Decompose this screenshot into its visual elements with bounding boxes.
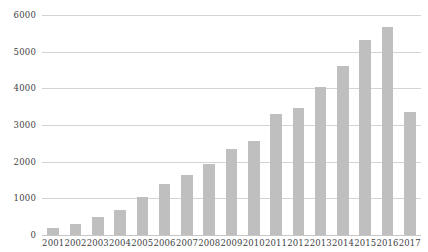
x-tick-label: 2002 bbox=[64, 238, 86, 248]
bar-2011 bbox=[270, 114, 282, 235]
bar-2014 bbox=[337, 66, 349, 235]
bar-2001 bbox=[47, 228, 59, 235]
x-tick-label: 2005 bbox=[131, 238, 153, 248]
bar-2005 bbox=[137, 197, 149, 235]
x-tick-label: 2011 bbox=[265, 238, 287, 248]
bar-2012 bbox=[293, 108, 305, 235]
x-tick-label: 2017 bbox=[399, 238, 421, 248]
y-tick-label: 4000 bbox=[14, 83, 36, 93]
x-tick-label: 2015 bbox=[354, 238, 376, 248]
bar-2003 bbox=[92, 217, 104, 235]
x-tick-label: 2008 bbox=[198, 238, 220, 248]
bar-chart: 0100020003000400050006000 20012002200320… bbox=[0, 0, 428, 252]
x-tick-label: 2013 bbox=[310, 238, 332, 248]
bar-2016 bbox=[382, 27, 394, 235]
x-tick-label: 2006 bbox=[154, 238, 176, 248]
bar-2004 bbox=[114, 210, 126, 235]
x-tick-label: 2010 bbox=[243, 238, 265, 248]
x-tick-label: 2004 bbox=[109, 238, 131, 248]
x-tick-label: 2001 bbox=[42, 238, 64, 248]
x-axis: 2001200220032004200520062007200820092010… bbox=[42, 238, 421, 252]
y-tick-label: 2000 bbox=[14, 157, 36, 167]
y-tick-label: 5000 bbox=[14, 47, 36, 57]
x-tick-label: 2012 bbox=[287, 238, 309, 248]
bar-2017 bbox=[404, 112, 416, 235]
bar-2009 bbox=[226, 149, 238, 235]
plot-area bbox=[42, 15, 421, 235]
y-tick-label: 1000 bbox=[14, 193, 36, 203]
y-tick-label: 6000 bbox=[14, 10, 36, 20]
y-tick-label: 0 bbox=[30, 230, 36, 240]
bar-2007 bbox=[181, 175, 193, 235]
y-axis: 0100020003000400050006000 bbox=[0, 0, 42, 252]
x-tick-label: 2003 bbox=[87, 238, 109, 248]
bar-2015 bbox=[359, 40, 371, 235]
bar-2013 bbox=[315, 87, 327, 236]
y-tick-label: 3000 bbox=[14, 120, 36, 130]
bar-2006 bbox=[159, 184, 171, 235]
x-tick-label: 2007 bbox=[176, 238, 198, 248]
bar-2008 bbox=[203, 164, 215, 236]
bar-2002 bbox=[70, 224, 82, 235]
x-tick-label: 2016 bbox=[377, 238, 399, 248]
bar-2010 bbox=[248, 141, 260, 235]
x-tick-label: 2014 bbox=[332, 238, 354, 248]
gridline-0 bbox=[42, 235, 421, 236]
x-tick-label: 2009 bbox=[220, 238, 242, 248]
bars-layer bbox=[42, 15, 421, 235]
